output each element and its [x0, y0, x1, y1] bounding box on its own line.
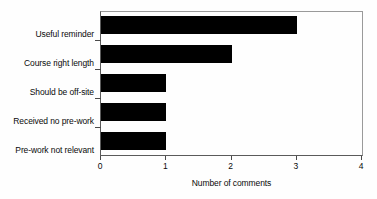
x-axis-tick-1 — [165, 156, 166, 160]
y-axis-tick-4 — [95, 127, 101, 128]
x-axis-tick-label-3: 3 — [286, 161, 306, 171]
category-label-received-no-pre-work: Received no pre-work — [0, 117, 94, 126]
x-axis-title: Number of comments — [100, 178, 363, 188]
bar-useful-reminder — [101, 16, 297, 34]
x-axis-tick-3 — [296, 156, 297, 160]
x-axis-tick-label-1: 1 — [155, 161, 175, 171]
category-label-useful-reminder: Useful reminder — [0, 30, 94, 39]
y-axis-tick-2 — [95, 69, 101, 70]
y-axis-tick-1 — [95, 40, 101, 41]
bar-course-right-length — [101, 45, 232, 63]
category-label-should-be-off-site: Should be off-site — [0, 88, 94, 97]
y-axis-tick-3 — [95, 98, 101, 99]
x-axis-tick-label-2: 2 — [221, 161, 241, 171]
category-label-course-right-length: Course right length — [0, 59, 94, 68]
x-axis-tick-4 — [361, 156, 362, 160]
x-axis-tick-label-4: 4 — [351, 161, 371, 171]
bar-pre-work-not-relevant — [101, 132, 166, 150]
x-axis-tick-label-0: 0 — [90, 161, 110, 171]
category-axis: Useful reminder Course right length Shou… — [0, 11, 97, 156]
bar-received-no-pre-work — [101, 103, 166, 121]
x-axis-tick-2 — [231, 156, 232, 160]
plot-area — [100, 11, 363, 156]
category-label-pre-work-not-relevant: Pre-work not relevant — [0, 146, 94, 155]
x-axis-tick-0 — [100, 156, 101, 160]
bar-should-be-off-site — [101, 74, 166, 92]
bar-chart: Useful reminder Course right length Shou… — [0, 0, 377, 199]
